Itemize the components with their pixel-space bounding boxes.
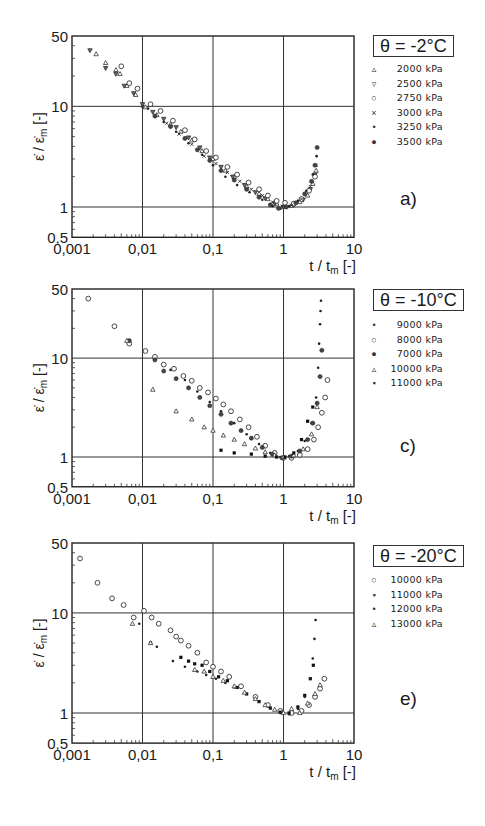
square-filled-marker-icon: ▪ (367, 376, 381, 391)
legend-item: ▵10000 kPa (367, 362, 443, 377)
legend-label: 11000 kPa (381, 588, 443, 603)
legend-label: 2750 kPa (381, 91, 443, 106)
cross-small-marker-icon: × (367, 106, 381, 121)
x-tick-label: 10 (346, 240, 363, 257)
y-tick-label: 10 (51, 350, 68, 367)
legend-label: 7000 kPa (381, 347, 443, 362)
legend-label: 2000 kPa (381, 62, 443, 77)
x-axis-label: t / tm [-] (309, 507, 356, 526)
x-tick-label: 1 (279, 240, 287, 257)
circle-open-marker-icon: ○ (367, 333, 381, 348)
y-tick-label: 1 (60, 449, 68, 466)
y-tick-label: 1 (60, 705, 68, 722)
triangle-up-marker-icon: ▵ (367, 362, 381, 377)
circle-filled-marker-icon: ● (367, 135, 381, 150)
legend-item: ▵2000 kPa (367, 62, 443, 77)
y-tick-label: 1 (60, 199, 68, 216)
legend-label: 8000 kPa (381, 333, 443, 348)
x-tick-label: 0,01 (128, 746, 157, 763)
legend-item: ▿2500 kPa (367, 77, 443, 92)
legend-label: 13000 kPa (381, 617, 443, 632)
x-tick-label: 0,1 (203, 240, 224, 257)
legend-e: ○10000 kPa▪11000 kPa•12000 kPa▵13000 kPa (367, 573, 443, 631)
y-tick-label: 0,5 (47, 479, 68, 496)
y-tick-label: 50 (51, 535, 68, 552)
y-tick-label: 0,5 (47, 229, 68, 246)
x-tick-label: 10 (346, 490, 363, 507)
x-tick-label: 0,01 (128, 240, 157, 257)
legend-label: 9000 kPa (381, 318, 443, 333)
triangle-down-marker-icon: ▿ (367, 77, 381, 92)
legend-label: 10000 kPa (381, 362, 443, 377)
y-tick-label: 50 (51, 281, 68, 298)
legend-label: 11000 kPa (381, 376, 443, 391)
legend-item: ▪11000 kPa (367, 376, 443, 391)
legend-item: ○8000 kPa (367, 333, 443, 348)
legend-item: ×3000 kPa (367, 106, 443, 121)
y-axis-label: ε̇ / ε̇m [-] (31, 363, 49, 412)
legend-item: •3250 kPa (367, 120, 443, 135)
y-tick-label: 0,5 (47, 735, 68, 752)
dot-marker-icon: • (367, 120, 381, 135)
figure: 0,0010,010,11100,511050t / tm [-]ε̇ / ε̇… (0, 0, 485, 826)
plot-panel-a: 0,0010,010,11100,511050t / tm [-]ε̇ / ε̇… (31, 28, 362, 276)
y-tick-label: 10 (51, 98, 68, 115)
y-tick-label: 50 (51, 28, 68, 45)
x-tick-label: 0,01 (128, 490, 157, 507)
legend-item: ○2750 kPa (367, 91, 443, 106)
y-axis-label: ε̇ / ε̇m [-] (31, 619, 49, 668)
temperature-label-a: θ = -2°C (373, 35, 454, 57)
panel-label-a: a) (400, 188, 417, 210)
y-axis-label: ε̇ / ε̇m [-] (31, 112, 49, 161)
panel-label-e: e) (400, 688, 417, 710)
x-axis-label: t / tm [-] (309, 257, 356, 276)
legend-label: 3250 kPa (381, 120, 443, 135)
square-filled-marker-icon: ▪ (367, 588, 381, 603)
x-tick-label: 0,1 (203, 490, 224, 507)
legend-item: ▵13000 kPa (367, 617, 443, 632)
legend-item: ▪11000 kPa (367, 588, 443, 603)
legend-label: 10000 kPa (381, 573, 443, 588)
panel-label-c: c) (400, 435, 416, 457)
legend-item: •12000 kPa (367, 602, 443, 617)
x-axis-label: t / tm [-] (309, 763, 356, 782)
legend-label: 2500 kPa (381, 77, 443, 92)
legend-label: 12000 kPa (381, 602, 443, 617)
dot-marker-icon: • (367, 602, 381, 617)
legend-c: •9000 kPa○8000 kPa●7000 kPa▵10000 kPa▪11… (367, 318, 443, 391)
plot-panel-e: 0,0010,010,11100,511050t / tm [-]ε̇ / ε̇… (31, 535, 362, 782)
x-tick-label: 1 (279, 490, 287, 507)
plot-panel-c: 0,0010,010,11100,511050t / tm [-]ε̇ / ε̇… (31, 281, 362, 526)
temperature-label-e: θ = -20°C (373, 545, 464, 567)
legend-item: ●7000 kPa (367, 347, 443, 362)
legend-a: ▵2000 kPa▿2500 kPa○2750 kPa×3000 kPa•325… (367, 62, 443, 149)
circle-open-marker-icon: ○ (367, 573, 381, 588)
triangle-up-marker-icon: ▵ (367, 617, 381, 632)
legend-label: 3500 kPa (381, 135, 443, 150)
legend-item: ○10000 kPa (367, 573, 443, 588)
x-tick-label: 0,1 (203, 746, 224, 763)
circle-filled-marker-icon: ● (367, 347, 381, 362)
x-tick-label: 10 (346, 746, 363, 763)
circle-open-marker-icon: ○ (367, 91, 381, 106)
legend-label: 3000 kPa (381, 106, 443, 121)
triangle-up-marker-icon: ▵ (367, 62, 381, 77)
y-tick-label: 10 (51, 605, 68, 622)
temperature-label-c: θ = -10°C (373, 289, 464, 311)
legend-item: •9000 kPa (367, 318, 443, 333)
dot-marker-icon: • (367, 318, 381, 333)
x-tick-label: 1 (279, 746, 287, 763)
legend-item: ●3500 kPa (367, 135, 443, 150)
